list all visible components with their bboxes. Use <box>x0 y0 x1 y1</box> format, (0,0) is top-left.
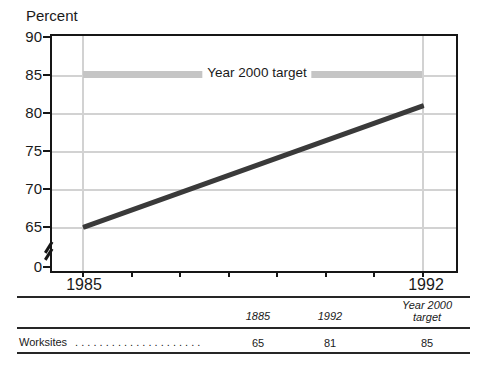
y-label-75: 75 <box>12 142 42 160</box>
value-1992: 81 <box>305 337 355 349</box>
leader-dots: . . . . . . . . . . . . . . . . . . . . … <box>75 336 200 348</box>
value-1985: 65 <box>233 337 283 349</box>
y-tick-80 <box>43 112 51 114</box>
y-tick-0 <box>43 266 51 268</box>
y-label-0: 0 <box>12 258 42 276</box>
x-label-1985: 1985 <box>54 276 114 294</box>
y-tick-70 <box>43 188 51 190</box>
y-label-80: 80 <box>12 104 42 122</box>
x-tick-1991 <box>373 272 375 277</box>
gridline-y-70 <box>52 189 456 191</box>
target-label: Year 2000 target <box>202 65 311 80</box>
x-label-1992: 1992 <box>396 276 456 294</box>
row-label-worksites: Worksites <box>19 336 67 348</box>
x-tick-1988 <box>228 272 230 277</box>
chart-figure: Percent Year 2000 target 90 85 80 75 70 … <box>0 0 477 368</box>
gridline-x-1992 <box>422 36 424 271</box>
y-label-90: 90 <box>12 28 42 46</box>
x-tick-1986 <box>131 272 133 277</box>
y-label-70: 70 <box>12 180 42 198</box>
table-rule-top <box>17 296 470 298</box>
x-tick-1990 <box>325 272 327 277</box>
y-label-85: 85 <box>12 66 42 84</box>
y-tick-90 <box>43 36 51 38</box>
gridline-y-65 <box>52 227 456 229</box>
value-year2000-target: 85 <box>390 337 464 349</box>
y-tick-85 <box>43 74 51 76</box>
table-header-year2000-line2: target <box>388 312 466 324</box>
table-rule-bottom <box>17 352 470 354</box>
gridline-y-75 <box>52 151 456 153</box>
y-tick-65 <box>43 226 51 228</box>
table-row-worksites: Worksites. . . . . . . . . . . . . . . .… <box>19 336 239 348</box>
table-rule-header <box>17 327 470 329</box>
table-header-1885: 1885 <box>233 311 283 323</box>
table-header-year2000-target: Year 2000 target <box>388 300 466 323</box>
y-label-65: 65 <box>12 218 42 236</box>
y-tick-75 <box>43 150 51 152</box>
table-header-year2000-line1: Year 2000 <box>388 300 466 312</box>
x-tick-1987 <box>179 272 181 277</box>
y-axis-title: Percent <box>26 7 78 24</box>
x-tick-1989 <box>276 272 278 277</box>
table-header-1992: 1992 <box>305 311 355 323</box>
